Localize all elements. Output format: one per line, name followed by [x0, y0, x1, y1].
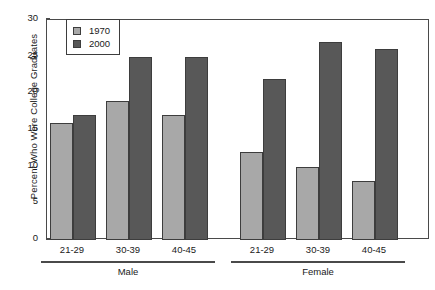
figure: Percent Who Were College Graduates 05101… [0, 0, 435, 290]
y-axis-tick-label: 15 [27, 122, 38, 133]
bar [162, 115, 185, 240]
bar [185, 57, 208, 240]
legend: 1970 2000 [66, 19, 120, 55]
bar [129, 57, 152, 240]
x-axis-tick-label: 30-39 [116, 244, 140, 255]
x-axis-tick-label: 21-29 [60, 244, 84, 255]
legend-label-1970: 1970 [89, 25, 110, 36]
group-label: Female [302, 266, 334, 277]
bar [319, 42, 342, 240]
bar [352, 181, 375, 240]
y-axis-tick-label: 5 [33, 195, 38, 206]
y-axis-tick-label: 0 [33, 232, 38, 243]
bar [240, 152, 263, 240]
bar [73, 115, 96, 240]
x-axis-tick-label: 40-45 [362, 244, 386, 255]
legend-item: 2000 [73, 37, 110, 50]
y-axis-tick-label: 20 [27, 85, 38, 96]
x-axis-tick-label: 40-45 [172, 244, 196, 255]
y-axis-tick-label: 10 [27, 159, 38, 170]
legend-label-2000: 2000 [89, 38, 110, 49]
legend-swatch-1970 [73, 27, 81, 35]
bar [296, 167, 319, 240]
bar [50, 123, 73, 240]
group-label: Male [118, 266, 139, 277]
bar [106, 101, 129, 240]
y-axis-tick-label: 25 [27, 49, 38, 60]
legend-swatch-2000 [73, 40, 81, 48]
group-rule [41, 261, 215, 263]
x-axis-tick-label: 30-39 [306, 244, 330, 255]
bar [375, 49, 398, 240]
group-rule [231, 261, 405, 263]
bar [263, 79, 286, 240]
y-axis-tick-label: 30 [27, 12, 38, 23]
legend-item: 1970 [73, 24, 110, 37]
x-axis-tick-label: 21-29 [250, 244, 274, 255]
